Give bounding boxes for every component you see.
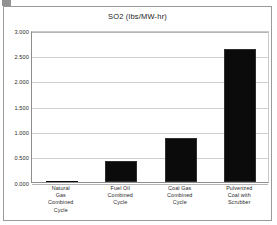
bar-3	[165, 138, 197, 182]
x-axis-label-line: Scrubber	[210, 199, 270, 206]
y-axis-tick-label: 1.500	[15, 105, 30, 111]
y-axis-tick-label: 0.500	[15, 155, 30, 161]
x-axis-label-line: Combined	[91, 192, 151, 199]
bar-2	[105, 161, 137, 182]
x-axis-label-line: Pulverized	[210, 185, 270, 192]
x-axis-label-3: Coal GasCombinedCycle	[150, 185, 210, 207]
chart-title: SO2 (lbs/MW-hr)	[4, 12, 271, 21]
x-axis-label-line: Combined	[31, 199, 91, 206]
x-axis-label-line: Gas	[31, 192, 91, 199]
x-axis-label-line: Combined	[150, 192, 210, 199]
x-axis-label-line: Fuel Oil	[91, 185, 151, 192]
plot-area: 3.0002.5002.0001.5001.0000.5000.000	[31, 31, 269, 183]
x-axis-label-line: Natural	[31, 185, 91, 192]
y-axis-tick-label: 3.000	[15, 29, 30, 35]
chart-frame: SO2 (lbs/MW-hr) 3.0002.5002.0001.5001.00…	[3, 6, 272, 221]
x-axis-labels: NaturalGasCombinedCycleFuel OilCombinedC…	[31, 185, 269, 225]
x-axis-label-line: Cycle	[31, 207, 91, 214]
x-axis-label-1: NaturalGasCombinedCycle	[31, 185, 91, 214]
y-axis-tick-label: 0.000	[15, 181, 30, 187]
bar-4	[224, 49, 256, 182]
y-axis-tick-label: 2.500	[15, 54, 30, 60]
y-axis-tick-label: 2.000	[15, 79, 30, 85]
x-axis-label-line: Coal with	[210, 192, 270, 199]
x-axis-label-line: Cycle	[150, 199, 210, 206]
y-axis-tick-label: 1.000	[15, 130, 30, 136]
x-axis-label-line: Cycle	[91, 199, 151, 206]
x-axis-label-4: PulverizedCoal withScrubber	[210, 185, 270, 207]
bars-group	[32, 32, 268, 182]
bar-1	[46, 181, 78, 182]
x-axis-label-2: Fuel OilCombinedCycle	[91, 185, 151, 207]
x-axis-label-line: Coal Gas	[150, 185, 210, 192]
